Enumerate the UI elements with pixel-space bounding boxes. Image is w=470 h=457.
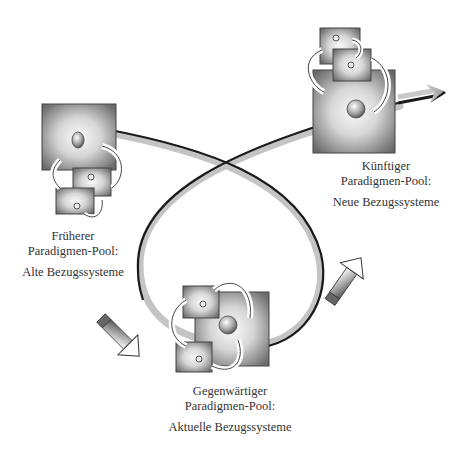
node-kuenftig-title: Künftiger (362, 159, 411, 173)
node-frueher-subtitle: Paradigmen-Pool: (28, 244, 118, 258)
node-kuenftig-subtitle: Paradigmen-Pool: (341, 174, 431, 188)
node-frueher-description: Alte Bezugssysteme (18, 265, 128, 280)
node-gegenwaertig-title: Gegenwärtiger (193, 384, 267, 398)
node-frueher-title: Früherer (51, 229, 94, 243)
pencil-arrow-down-right-icon (91, 308, 149, 366)
pencil-arrow-up-right-icon (319, 250, 373, 310)
node-frueher-graphic (42, 104, 121, 217)
node-gegenwaertig-description: Aktuelle Bezugssysteme (160, 420, 300, 435)
node-kuenftig-description: Neue Bezugssysteme (326, 195, 446, 210)
node-gegenwaertig-graphic (172, 283, 269, 372)
node-kuenftig-label: Künftiger Paradigmen-Pool: Neue Bezugssy… (326, 159, 446, 210)
node-frueher-label: Früherer Paradigmen-Pool: Alte Bezugssys… (18, 229, 128, 280)
node-gegenwaertig-subtitle: Paradigmen-Pool: (185, 399, 275, 413)
node-kuenftig-graphic (308, 28, 395, 153)
paradigm-diagram: Früherer Paradigmen-Pool: Alte Bezugssys… (0, 0, 470, 457)
node-gegenwaertig-label: Gegenwärtiger Paradigmen-Pool: Aktuelle … (160, 384, 300, 435)
